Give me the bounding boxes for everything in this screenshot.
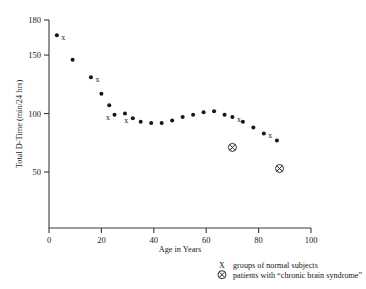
x-tick-label: 80 xyxy=(254,235,263,245)
y-tick-label: 50 xyxy=(33,167,42,177)
data-point-dot xyxy=(275,138,279,142)
plot-canvas: 50100150180 020406080100 Total D-Time (m… xyxy=(0,0,366,289)
data-point-x-marker: x xyxy=(61,33,65,42)
data-point-x-marker: x xyxy=(237,115,241,124)
series-patients-cbs xyxy=(228,143,283,172)
data-point-dot xyxy=(123,112,127,116)
data-point-x-marker: x xyxy=(95,75,99,84)
x-tick-label: 20 xyxy=(97,235,106,245)
data-point-dot xyxy=(55,33,59,37)
x-tick-label: 40 xyxy=(150,235,159,245)
data-point-dot xyxy=(113,113,117,117)
data-point-dot xyxy=(170,119,174,123)
y-axis-title: Total D-Time (min/24 hrs) xyxy=(15,80,24,169)
y-tick-label: 180 xyxy=(28,15,41,25)
data-point-dot xyxy=(89,75,93,79)
x-tick-label: 100 xyxy=(305,235,318,245)
axes-group xyxy=(49,20,311,228)
data-point-dot xyxy=(107,103,111,107)
data-point-dot xyxy=(139,120,143,124)
data-point-x-marker: x xyxy=(106,113,110,122)
x-axis-ticks: 020406080100 xyxy=(47,228,318,245)
data-point-dot xyxy=(149,121,153,125)
data-point-dot xyxy=(223,113,227,117)
x-tick-label: 60 xyxy=(202,235,211,245)
chart-legend: Xgroups of normal subjectspatients with … xyxy=(218,261,363,280)
x-tick-label: 0 xyxy=(47,235,51,245)
data-point-dot xyxy=(241,120,245,124)
legend-entry-label: groups of normal subjects xyxy=(233,261,318,270)
data-point-x-marker: x xyxy=(124,116,128,125)
y-axis-ticks: 50100150180 xyxy=(28,15,49,177)
data-point-dot xyxy=(212,109,216,113)
y-tick-label: 150 xyxy=(28,50,41,60)
data-point-dot xyxy=(262,131,266,135)
series-normal-subjects: xxxxxx xyxy=(55,33,279,142)
scatter-chart-figure: 50100150180 020406080100 Total D-Time (m… xyxy=(0,0,366,289)
data-point-dot xyxy=(202,110,206,114)
legend-symbol-x: X xyxy=(219,261,225,270)
data-point-dot xyxy=(251,126,255,130)
data-point-dot xyxy=(71,58,75,62)
data-point-dot xyxy=(230,115,234,119)
data-point-dot xyxy=(99,92,103,96)
legend-entry-label: patients with “chronic brain syndrome” xyxy=(233,271,363,280)
x-axis-title: Age in Years xyxy=(159,245,202,254)
data-point-dot xyxy=(191,113,195,117)
data-point-dot xyxy=(131,116,135,120)
data-point-dot xyxy=(181,115,185,119)
y-tick-label: 100 xyxy=(28,109,41,119)
data-point-dot xyxy=(160,121,164,125)
data-point-x-marker: x xyxy=(268,131,272,140)
